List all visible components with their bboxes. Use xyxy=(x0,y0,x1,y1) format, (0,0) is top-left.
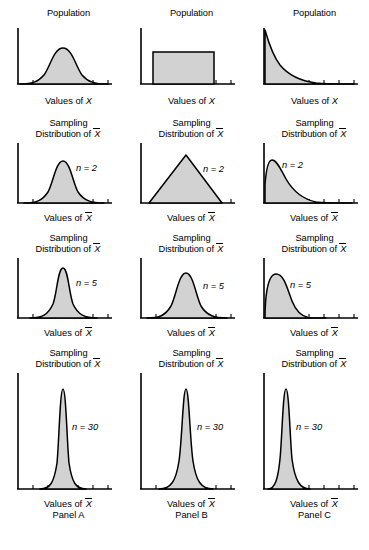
plot-title-line: Population xyxy=(260,8,369,19)
plot-title-line2: Distribution of X xyxy=(260,244,369,255)
x-axis-label: Values of X xyxy=(260,213,369,224)
distribution-curve-triangular xyxy=(149,155,222,203)
cell-panel-a-n2: Sampling Distribution of X n = 2 xyxy=(0,116,123,231)
distribution-curve-uniform xyxy=(153,52,214,84)
svg-n2-skewed xyxy=(246,141,369,213)
cell-panel-c-n2: Sampling Distribution of X n = 2 xyxy=(246,116,369,231)
plot-title-line1: Sampling xyxy=(260,118,369,129)
plot-title: Sampling Distribution of X xyxy=(14,348,123,369)
plot-area-n2-normal xyxy=(0,141,123,213)
x-bar-symbol: X xyxy=(85,499,93,510)
x-bar-symbol: X xyxy=(331,213,339,224)
plot-area-normal-population xyxy=(0,22,123,94)
plot-title-line1: Sampling xyxy=(137,348,246,359)
cell-panel-c-n5: Sampling Distribution of X n = 5 xyxy=(246,231,369,346)
variable-x: X xyxy=(86,96,92,106)
plot-title-line1: Sampling xyxy=(260,348,369,359)
x-bar-symbol: X xyxy=(216,359,224,370)
sample-size-label: n = 5 xyxy=(203,281,224,291)
svg-n2-normal xyxy=(0,141,123,213)
plot-title: Sampling Distribution of X xyxy=(260,118,369,139)
x-bar-symbol: X xyxy=(331,328,339,339)
cell-panel-a-n30: Sampling Distribution of X n = 30 xyxy=(0,346,123,546)
x-axis-label: Values of X xyxy=(137,96,246,107)
plot-area-n5-skewed xyxy=(246,256,369,328)
x-bar-symbol: X xyxy=(208,213,216,224)
plot-title-line2: Distribution of X xyxy=(137,129,246,140)
x-axis-label: Values of X xyxy=(14,96,123,107)
plot-title: Sampling Distribution of X xyxy=(14,118,123,139)
plot-title-line1: Sampling xyxy=(14,233,123,244)
distribution-curve-normal xyxy=(20,48,108,84)
sample-size-label: n = 2 xyxy=(282,160,303,170)
x-bar-symbol: X xyxy=(93,244,101,255)
plot-title: Population xyxy=(260,8,369,19)
svg-n5-normal-b xyxy=(123,256,246,328)
x-bar-symbol: X xyxy=(216,129,224,140)
distribution-curve-skewed xyxy=(265,160,352,203)
distribution-curve-nearnormal xyxy=(268,389,310,489)
cell-panel-b-n5: Sampling Distribution of X n = 5 xyxy=(123,231,246,346)
plot-title-line1: Sampling xyxy=(260,233,369,244)
sample-size-label: n = 5 xyxy=(290,280,311,290)
sample-size-label: n = 30 xyxy=(72,422,98,432)
plot-title-line: Population xyxy=(14,8,123,19)
plot-title: Population xyxy=(137,8,246,19)
panel-name-a: Panel A xyxy=(14,510,123,521)
svg-n30-normal xyxy=(0,371,123,499)
panel-name-b: Panel B xyxy=(137,510,246,521)
svg-n30-nearnormal xyxy=(246,371,369,499)
cell-panel-c-population: Population Values of X xyxy=(246,6,369,116)
x-bar-symbol: X xyxy=(85,328,93,339)
x-bar-symbol: X xyxy=(93,129,101,140)
cell-panel-b-n30: Sampling Distribution of X n = 30 xyxy=(123,346,246,546)
distribution-curve-normal xyxy=(159,389,213,489)
plot-title-line2: Distribution of X xyxy=(14,244,123,255)
cell-panel-a-n5: Sampling Distribution of X n = 5 xyxy=(0,231,123,346)
plot-grid: Population Values of X xyxy=(0,6,369,546)
x-axis-label: Values of X xyxy=(137,328,246,339)
svg-n2-triangular xyxy=(123,141,246,213)
plot-title: Sampling Distribution of X xyxy=(260,348,369,369)
plot-title-line2: Distribution of X xyxy=(137,359,246,370)
x-axis-label: Values of X xyxy=(260,96,369,107)
distribution-curve-normal xyxy=(147,273,227,318)
sample-size-label: n = 30 xyxy=(296,422,322,432)
sample-size-label: n = 2 xyxy=(203,164,224,174)
svg-n5-normal xyxy=(0,256,123,328)
plot-title: Population xyxy=(14,8,123,19)
sample-size-label: n = 30 xyxy=(197,422,223,432)
x-axis-label: Values of X xyxy=(14,213,123,224)
distribution-curve-normal xyxy=(40,389,86,489)
x-bar-symbol: X xyxy=(339,129,347,140)
plot-title-line2: Distribution of X xyxy=(260,359,369,370)
distribution-curve-normal xyxy=(30,268,97,318)
cell-panel-b-n2: Sampling Distribution of X n = 2 xyxy=(123,116,246,231)
plot-area-n2-skewed xyxy=(246,141,369,213)
svg-normal-population xyxy=(0,22,123,94)
cell-panel-a-population: Population Values of X xyxy=(0,6,123,116)
x-axis-label: Values of X xyxy=(137,499,246,510)
plot-title: Sampling Distribution of X xyxy=(14,233,123,254)
plot-title-line2: Distribution of X xyxy=(14,359,123,370)
plot-title-line1: Sampling xyxy=(137,233,246,244)
plot-area-n30-normal xyxy=(0,371,123,499)
central-limit-theorem-figure: Population Values of X xyxy=(0,0,369,550)
plot-area-uniform-population xyxy=(123,22,246,94)
plot-title-line: Population xyxy=(137,8,246,19)
plot-title-line1: Sampling xyxy=(14,348,123,359)
x-bar-symbol: X xyxy=(331,499,339,510)
sample-size-label: n = 5 xyxy=(76,278,97,288)
x-axis-label: Values of X xyxy=(14,499,123,510)
x-axis-label: Values of X xyxy=(260,328,369,339)
plot-title-line1: Sampling xyxy=(14,118,123,129)
cell-panel-c-n30: Sampling Distribution of X n = 30 xyxy=(246,346,369,546)
plot-title-line2: Distribution of X xyxy=(260,129,369,140)
x-bar-symbol: X xyxy=(339,359,347,370)
plot-title-line2: Distribution of X xyxy=(14,129,123,140)
x-bar-symbol: X xyxy=(216,244,224,255)
plot-title: Sampling Distribution of X xyxy=(137,118,246,139)
svg-n5-skewed xyxy=(246,256,369,328)
plot-area-n2-triangular xyxy=(123,141,246,213)
plot-area-exponential-population xyxy=(246,22,369,94)
